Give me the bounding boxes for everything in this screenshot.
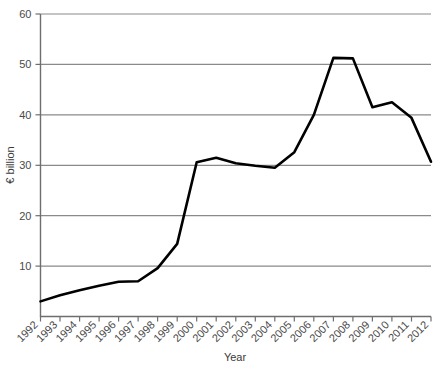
y-axis-tick-label: 10 [19,260,31,272]
y-axis-tick-label: 40 [19,109,31,121]
y-axis-title: € billion [4,146,16,183]
x-axis-title: Year [224,351,247,363]
chart-background [0,0,440,371]
y-axis-tick-label: 30 [19,159,31,171]
y-axis-tick-label: 20 [19,210,31,222]
line-chart: 102030405060 199219931994199519961997199… [0,0,440,371]
y-axis-tick-label: 60 [19,8,31,20]
y-axis-tick-label: 50 [19,58,31,70]
x-axis-ticks [41,317,432,322]
chart-canvas: 102030405060 199219931994199519961997199… [0,0,440,371]
